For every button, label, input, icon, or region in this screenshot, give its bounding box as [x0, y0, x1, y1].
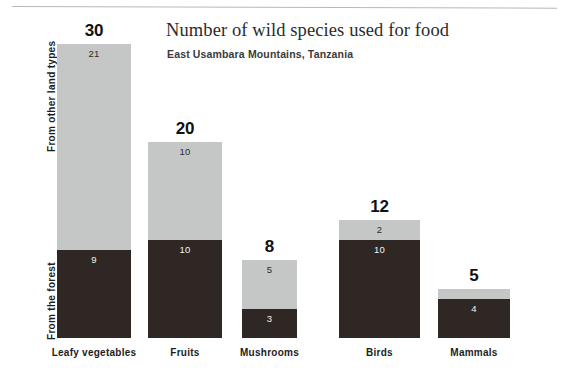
bar-value-other-land-types: 5 — [242, 264, 297, 275]
bar-segment-from-the-forest[interactable]: 3 — [242, 309, 297, 338]
bar-value-from-the-forest: 9 — [57, 254, 131, 265]
bar-group[interactable]: 21930Leafy vegetables — [57, 44, 131, 338]
bar-segment-other-land-types[interactable]: 10 — [148, 142, 222, 240]
bar-value-from-the-forest: 10 — [339, 244, 420, 255]
bar-value-other-land-types: 2 — [339, 224, 420, 235]
bar-value-from-the-forest: 10 — [148, 244, 222, 255]
bar-total-label: 5 — [424, 266, 524, 286]
bar-segment-other-land-types[interactable]: 21 — [57, 44, 131, 250]
bar-total-label: 20 — [134, 119, 236, 139]
bar-group[interactable]: 21012Birds — [339, 220, 420, 338]
bar-group[interactable]: 101020Fruits — [148, 142, 222, 338]
bar-value-from-the-forest: 3 — [242, 313, 297, 324]
bar-segment-from-the-forest[interactable]: 4 — [438, 299, 510, 338]
bar-segment-from-the-forest[interactable]: 9 — [57, 250, 131, 338]
bar-total-label: 30 — [43, 21, 145, 41]
bar-category-label: Mammals — [398, 347, 550, 358]
bar-segment-other-land-types[interactable]: 5 — [242, 260, 297, 309]
bar-total-label: 12 — [325, 197, 434, 217]
bar-group[interactable]: 538Mushrooms — [242, 260, 297, 338]
bar-value-from-the-forest: 4 — [438, 303, 510, 314]
bar-segment-other-land-types[interactable]: 2 — [339, 220, 420, 240]
bar-segment-from-the-forest[interactable]: 10 — [148, 240, 222, 338]
bar-segment-from-the-forest[interactable]: 10 — [339, 240, 420, 338]
bar-value-other-land-types: 10 — [148, 146, 222, 157]
bar-segment-other-land-types[interactable]: 1 — [438, 289, 510, 299]
chart-page: Number of wild species used for food Eas… — [0, 0, 569, 375]
bar-total-label: 8 — [228, 237, 311, 257]
bar-value-other-land-types: 21 — [57, 48, 131, 59]
plot-area: 21930Leafy vegetables101020Fruits538Mush… — [0, 0, 569, 375]
bar-group[interactable]: 145Mammals — [438, 289, 510, 338]
